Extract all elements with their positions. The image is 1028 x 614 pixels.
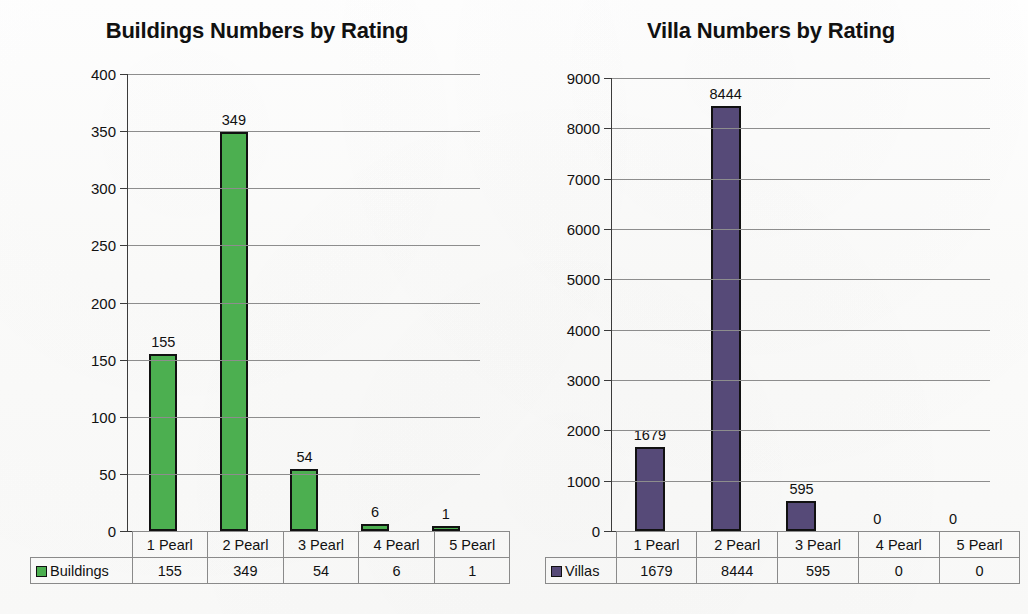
gridline bbox=[612, 430, 990, 431]
table-cell-value: 8444 bbox=[697, 558, 778, 584]
chart-title-buildings: Buildings Numbers by Rating bbox=[0, 18, 556, 44]
y-axis-tick-label: 400 bbox=[91, 66, 116, 83]
y-axis-tick-label: 300 bbox=[91, 180, 116, 197]
gridline bbox=[128, 474, 480, 475]
table-column-header: 3 Pearl bbox=[778, 532, 859, 558]
table-column-header: 5 Pearl bbox=[434, 532, 510, 558]
table-corner-spacer bbox=[31, 532, 133, 558]
bar-value-label: 8444 bbox=[710, 86, 742, 102]
gridline bbox=[612, 128, 990, 129]
table-column-header: 2 Pearl bbox=[697, 532, 778, 558]
table-row: 1 Pearl2 Pearl3 Pearl4 Pearl5 Pearl bbox=[546, 532, 1020, 558]
y-axis-tick bbox=[604, 128, 612, 129]
y-axis-tick-label: 350 bbox=[91, 123, 116, 140]
gridline bbox=[128, 360, 480, 361]
table-column-header: 5 Pearl bbox=[939, 532, 1020, 558]
gridline bbox=[612, 229, 990, 230]
y-axis-tick-label: 200 bbox=[91, 294, 116, 311]
gridline bbox=[128, 74, 480, 75]
bar-slot: 0 bbox=[915, 78, 991, 531]
plot-area-buildings: 1553495461 400350300250200150100500 bbox=[127, 74, 480, 531]
table-corner-spacer bbox=[546, 532, 617, 558]
bar-group-villas: 1679844459500 bbox=[612, 78, 990, 531]
y-axis-tick bbox=[120, 74, 128, 75]
y-axis-tick bbox=[604, 78, 612, 79]
y-axis-tick bbox=[120, 360, 128, 361]
legend-entry: Villas bbox=[546, 558, 617, 584]
bar-value-label: 595 bbox=[789, 481, 813, 497]
bar[interactable] bbox=[290, 469, 318, 531]
y-axis-tick-label: 50 bbox=[99, 465, 116, 482]
table-cell-value: 0 bbox=[939, 558, 1020, 584]
table-row: Villas1679844459500 bbox=[546, 558, 1020, 584]
bar-slot: 8444 bbox=[688, 78, 764, 531]
y-axis-tick-label: 4000 bbox=[567, 321, 600, 338]
chart-panel-villas: Villa Numbers by Rating 1679844459500 90… bbox=[514, 0, 1028, 614]
legend-swatch-icon bbox=[36, 566, 47, 577]
bar-value-label: 155 bbox=[151, 334, 175, 350]
y-axis-tick bbox=[120, 303, 128, 304]
table-row: Buildings1553495461 bbox=[31, 558, 510, 584]
table-cell-value: 0 bbox=[858, 558, 939, 584]
gridline bbox=[128, 188, 480, 189]
legend-swatch-icon bbox=[551, 566, 562, 577]
bar[interactable] bbox=[635, 447, 665, 532]
bar[interactable] bbox=[786, 501, 816, 531]
bar[interactable] bbox=[711, 106, 741, 531]
bar-value-label: 1679 bbox=[634, 427, 666, 443]
table-column-header: 3 Pearl bbox=[283, 532, 359, 558]
data-table-villas: 1 Pearl2 Pearl3 Pearl4 Pearl5 PearlVilla… bbox=[545, 531, 1020, 584]
chart-title-villas: Villa Numbers by Rating bbox=[514, 18, 1028, 44]
legend-entry: Buildings bbox=[31, 558, 133, 584]
table-cell-value: 6 bbox=[359, 558, 435, 584]
bar-value-label: 6 bbox=[371, 504, 379, 520]
gridline bbox=[128, 245, 480, 246]
gridline bbox=[128, 131, 480, 132]
y-axis-tick-label: 9000 bbox=[567, 70, 600, 87]
table-row: 1 Pearl2 Pearl3 Pearl4 Pearl5 Pearl bbox=[31, 532, 510, 558]
gridline bbox=[612, 279, 990, 280]
bar-value-label: 349 bbox=[222, 112, 246, 128]
gridline bbox=[612, 330, 990, 331]
y-axis-tick bbox=[120, 188, 128, 189]
y-axis-tick-label: 8000 bbox=[567, 120, 600, 137]
table-column-header: 4 Pearl bbox=[359, 532, 435, 558]
y-axis-tick-label: 6000 bbox=[567, 221, 600, 238]
y-axis-tick-label: 3000 bbox=[567, 372, 600, 389]
y-axis-tick-label: 150 bbox=[91, 351, 116, 368]
chart-panel-buildings: Buildings Numbers by Rating 1553495461 4… bbox=[0, 0, 514, 614]
gridline bbox=[128, 303, 480, 304]
data-table-buildings: 1 Pearl2 Pearl3 Pearl4 Pearl5 PearlBuild… bbox=[30, 531, 510, 584]
y-axis-tick-label: 7000 bbox=[567, 170, 600, 187]
gridline bbox=[612, 481, 990, 482]
y-axis-tick-label: 100 bbox=[91, 408, 116, 425]
bar[interactable] bbox=[361, 524, 389, 531]
bar[interactable] bbox=[220, 132, 248, 531]
y-axis-tick-label: 5000 bbox=[567, 271, 600, 288]
y-axis-tick bbox=[604, 380, 612, 381]
table-column-header: 1 Pearl bbox=[616, 532, 697, 558]
bar[interactable] bbox=[149, 354, 177, 531]
bar-value-label: 0 bbox=[873, 511, 881, 527]
legend-label: Buildings bbox=[50, 563, 109, 579]
gridline bbox=[612, 380, 990, 381]
y-axis-tick bbox=[120, 417, 128, 418]
bar-slot: 1679 bbox=[612, 78, 688, 531]
bar-value-label: 1 bbox=[442, 506, 450, 522]
y-axis-tick bbox=[604, 330, 612, 331]
legend-label: Villas bbox=[565, 563, 599, 579]
table-column-header: 1 Pearl bbox=[132, 532, 208, 558]
bar-slot: 595 bbox=[764, 78, 840, 531]
y-axis-tick bbox=[604, 481, 612, 482]
bar-slot: 0 bbox=[839, 78, 915, 531]
table-cell-value: 1679 bbox=[616, 558, 697, 584]
bar-value-label: 0 bbox=[949, 511, 957, 527]
gridline bbox=[128, 417, 480, 418]
table-column-header: 4 Pearl bbox=[858, 532, 939, 558]
y-axis-tick bbox=[120, 245, 128, 246]
y-axis-tick-label: 2000 bbox=[567, 422, 600, 439]
table-column-header: 2 Pearl bbox=[208, 532, 284, 558]
gridline bbox=[612, 179, 990, 180]
y-axis-tick-label: 1000 bbox=[567, 472, 600, 489]
table-cell-value: 349 bbox=[208, 558, 284, 584]
